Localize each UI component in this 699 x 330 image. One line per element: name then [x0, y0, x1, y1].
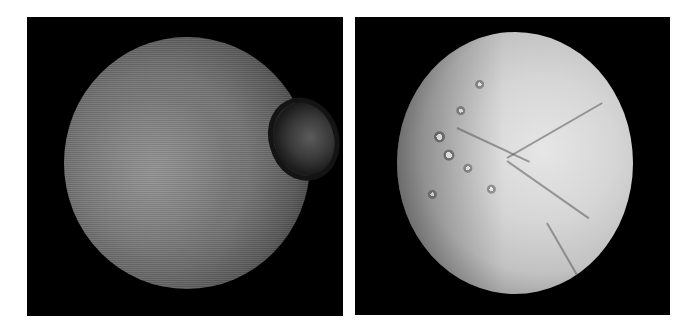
right-moon-image-panel	[355, 17, 670, 315]
right-moon-disc	[397, 32, 633, 294]
surface-fracture	[506, 160, 589, 219]
left-moon-image-panel	[27, 17, 343, 316]
left-moon-disc	[64, 37, 310, 289]
surface-fracture	[507, 102, 603, 159]
surface-fracture	[546, 223, 578, 276]
large-crater	[259, 89, 343, 188]
surface-fracture	[457, 127, 530, 163]
